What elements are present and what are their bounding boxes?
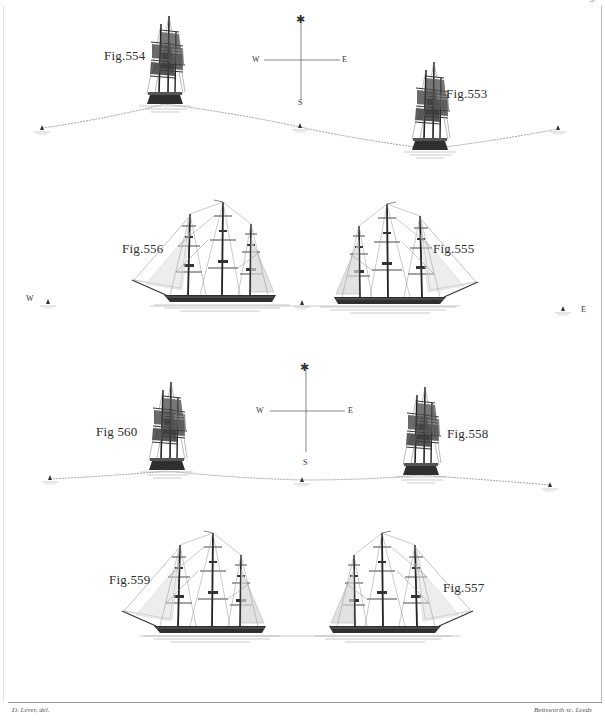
figure-label-555: Fig.555 — [433, 241, 475, 257]
compass-lower-west: W — [256, 406, 264, 415]
compass-north-icon: ✱ — [296, 13, 305, 26]
figure-label-559: Fig.559 — [109, 572, 151, 588]
wave-track-lower — [50, 471, 550, 485]
compass-lower — [270, 370, 345, 452]
ship-fig-558 — [395, 387, 447, 483]
ship-fig-555 — [320, 202, 478, 313]
figure-label-557: Fig.557 — [443, 580, 485, 596]
compass-upper-east: E — [342, 55, 347, 64]
ship-fig-554 — [139, 16, 191, 112]
compass-lower-south: S — [303, 458, 307, 467]
figure-label-558: Fig.558 — [447, 426, 489, 442]
figure-label-554: Fig.554 — [104, 48, 146, 64]
ship-fig-560 — [141, 382, 193, 478]
figure-label-553: Fig.553 — [446, 86, 488, 102]
wind-marker-east: E — [581, 305, 586, 314]
compass-north-icon: ✱ — [300, 361, 309, 374]
credit-draughtsman: D. Lever, del. — [12, 706, 50, 714]
figure-label-556: Fig.556 — [122, 241, 164, 257]
figure-label-560: Fig 560 — [96, 424, 138, 440]
compass-upper-south: S — [298, 98, 302, 107]
credit-engraver: Bettsworth sc. Leeds — [534, 706, 592, 714]
compass-upper-west: W — [252, 55, 260, 64]
engraving-plate: 9 — [0, 0, 605, 721]
wind-marker-west: W — [26, 294, 34, 303]
compass-lower-east: E — [348, 406, 353, 415]
compass-upper — [264, 22, 340, 100]
ship-fig-553 — [404, 62, 456, 158]
